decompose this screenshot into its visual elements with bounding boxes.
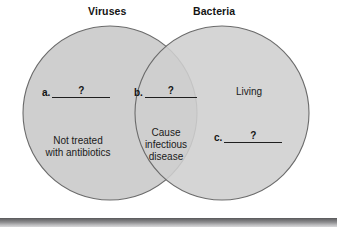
answer-blank-a-label: a. xyxy=(42,87,52,98)
venn-diagram-figure: Viruses Bacteria Not treated with antibi… xyxy=(0,0,337,227)
answer-blank-c-label: c. xyxy=(214,132,224,143)
circle-title-right: Bacteria xyxy=(193,5,235,17)
venn-circle-right xyxy=(135,26,309,200)
venn-circle-group xyxy=(23,26,309,200)
answer-blank-a[interactable]: a. ? xyxy=(42,86,110,98)
region-label-left-only: Not treated with antibiotics xyxy=(24,135,132,159)
answer-blank-a-value: ? xyxy=(52,86,110,96)
circle-title-left: Viruses xyxy=(88,5,126,17)
answer-blank-b[interactable]: b. ? xyxy=(134,86,197,98)
answer-blank-a-rule[interactable]: ? xyxy=(52,86,110,98)
region-label-intersection: Cause infectious disease xyxy=(133,127,199,164)
answer-blank-c[interactable]: c. ? xyxy=(214,131,282,143)
answer-blank-b-value: ? xyxy=(145,86,197,96)
answer-blank-c-value: ? xyxy=(224,131,282,141)
answer-blank-b-label: b. xyxy=(134,87,145,98)
region-label-right-only: Living xyxy=(212,86,286,98)
venn-circles-graphic xyxy=(0,0,337,227)
bottom-gradient-bar xyxy=(0,218,337,227)
answer-blank-b-rule[interactable]: ? xyxy=(145,86,197,98)
answer-blank-c-rule[interactable]: ? xyxy=(224,131,282,143)
